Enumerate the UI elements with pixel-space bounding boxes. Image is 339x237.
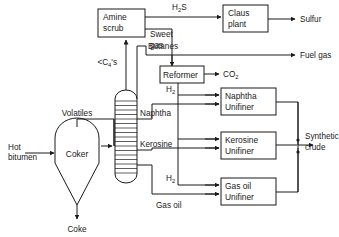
hot-bitumen-label-line2: bitumen [8, 153, 38, 162]
hydrogen-label-upper: H2 [166, 85, 175, 95]
unit-gas-oil-unifiner[interactable]: Gas oil Unifiner [221, 178, 276, 205]
h2-to-gasoil-unifiner [178, 139, 219, 185]
fuel-gas-label: Fuel gas [300, 51, 331, 60]
sweet-gas-label-line1: Sweet [150, 30, 173, 39]
naphtha-label: Naphtha [140, 109, 171, 118]
gas-oil-label: Gas oil [156, 201, 182, 210]
butanes-label: Butanes [148, 42, 178, 51]
coker-vessel-shape [55, 118, 99, 205]
unit-kerosine-unifiner[interactable]: Kerosine Unifiner [221, 132, 276, 159]
sulfur-label: Sulfur [300, 15, 322, 24]
amine-scrub-label-line2: scrub [103, 23, 124, 33]
naphtha-unifiner-label-line2: Unifiner [225, 102, 254, 112]
kerosine-label: Kerosine [140, 140, 173, 149]
unit-claus-plant[interactable]: Claus plant [223, 5, 268, 32]
unit-fractionator[interactable] [115, 90, 137, 183]
hot-bitumen-label-line1: Hot [8, 143, 21, 152]
gasoil-product-to-header [276, 148, 298, 192]
volatiles-label: Volatiles [62, 109, 93, 118]
naphtha-product-to-header [276, 102, 298, 145]
stream-co2: CO2 [204, 70, 239, 80]
stream-h2s: H2S [145, 3, 221, 17]
kerosine-unifiner-label-line1: Kerosine [225, 135, 258, 145]
h2-to-naphtha-unifiner [178, 83, 219, 95]
naphtha-unifiner-label-line1: Naphtha [225, 91, 257, 101]
stream-sulfur: Sulfur [268, 15, 322, 24]
claus-plant-label-line2: plant [228, 19, 247, 29]
stream-fuel-gas: Fuel gas [172, 51, 331, 60]
stream-hot-bitumen: Hot bitumen [8, 143, 54, 162]
synthetic-crude-label-line1: Synthetic [305, 132, 339, 141]
flowsheet-canvas: Coker Hot bitumen Coke Volatiles [0, 0, 339, 237]
coke-label: Coke [67, 225, 87, 234]
h2s-label: H2S [172, 3, 187, 13]
collector-junction-upper [296, 138, 299, 141]
unit-naphtha-unifiner[interactable]: Naphtha Unifiner [221, 88, 276, 115]
reformer-label: Reformer [163, 70, 198, 80]
unit-reformer[interactable]: Reformer [160, 66, 204, 83]
kerosine-unifiner-label-line2: Unifiner [225, 146, 254, 156]
butanes-tieline [137, 46, 146, 55]
collector-junction-lower [296, 150, 299, 153]
claus-plant-label-line1: Claus [228, 8, 249, 18]
h2-to-kerosine-unifiner [178, 95, 219, 139]
process-flow-diagram: Coker Hot bitumen Coke Volatiles [0, 0, 339, 237]
unit-coker[interactable]: Coker [55, 118, 99, 205]
hydrogen-label-lower: H2 [166, 174, 175, 184]
synthetic-crude-label-line2: crude [305, 143, 326, 152]
stream-light-ends: <C4's [97, 40, 126, 90]
amine-scrub-label-line1: Amine [103, 12, 127, 22]
fractionator-shell [115, 90, 137, 183]
co2-label: CO2 [223, 70, 239, 80]
gas-oil-unifiner-label-line2: Unifiner [225, 192, 254, 202]
stream-coke: Coke [67, 205, 87, 234]
coker-label: Coker [66, 149, 89, 159]
unit-amine-scrub[interactable]: Amine scrub [98, 9, 145, 37]
light-ends-label: <C4's [97, 58, 117, 68]
stream-hydrogen-header: H2 H2 [166, 83, 219, 185]
stream-synthetic-crude: Synthetic crude [276, 102, 339, 192]
gas-oil-unifiner-label-line1: Gas oil [225, 181, 251, 191]
